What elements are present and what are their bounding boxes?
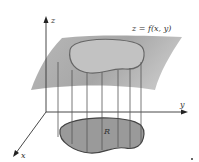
- surface-region-outline: [70, 39, 144, 73]
- y-axis-arrow-icon: [181, 110, 188, 115]
- y-axis-label: y: [179, 100, 185, 109]
- dot: [191, 158, 193, 160]
- x-axis: [16, 112, 46, 153]
- surface-label: z = f(x, y): [131, 24, 171, 33]
- region-label: R: [103, 127, 110, 136]
- z-axis-arrow-icon: [44, 16, 49, 23]
- x-axis-label: x: [21, 151, 26, 160]
- z-axis-label: z: [50, 16, 56, 25]
- x-axis-arrow-icon: [13, 150, 19, 157]
- double-integral-diagram: z y x z = f(x, y) R: [0, 0, 199, 162]
